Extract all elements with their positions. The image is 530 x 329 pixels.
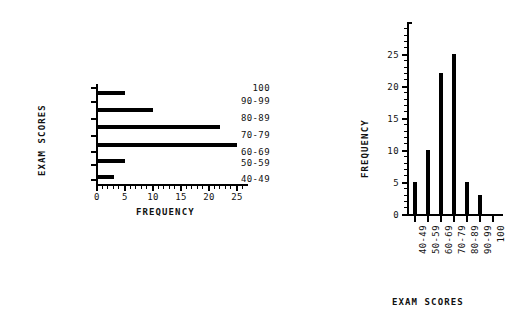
- chart-right-y-tick-label-15: 15: [387, 115, 399, 124]
- chart-right-y-axis-title: FREQUENCY: [361, 119, 370, 178]
- chart-left-x-minor-tick: [225, 186, 226, 189]
- chart-right-x-tick-90-99: [479, 216, 481, 222]
- chart-right-y-minor-tick: [404, 105, 408, 106]
- chart-left-x-minor-tick: [113, 186, 114, 189]
- chart-left-category-label-80-89: 80-89: [222, 114, 270, 123]
- chart-right-y-tick-label-25: 25: [387, 51, 399, 60]
- chart-left-bar-70-79: [97, 125, 220, 129]
- chart-left-x-minor-tick: [135, 186, 136, 189]
- chart-right-x-tick-label-40-49: 40-49: [419, 225, 428, 254]
- chart-left-y-tick-1: [91, 101, 96, 103]
- chart-right-x-tick-50-59: [427, 216, 429, 222]
- chart-right-y-tick-label-0: 0: [393, 211, 399, 220]
- chart-left-x-tick-15: [180, 186, 182, 191]
- chart-right-y-minor-tick: [404, 111, 408, 112]
- chart-left-x-minor-tick: [230, 186, 231, 189]
- chart-left-category-label-50-59: 50-59: [222, 159, 270, 168]
- chart-right-y-tick-5: [402, 182, 408, 184]
- chart-left-y-tick-4: [91, 151, 96, 153]
- chart-left-x-minor-tick: [141, 186, 142, 189]
- chart-right-y-minor-tick: [404, 99, 408, 100]
- chart-left-bar-40-49: [97, 175, 114, 179]
- chart-right-y-minor-tick: [404, 201, 408, 202]
- chart-left-x-tick-label-0: 0: [94, 193, 100, 202]
- chart-right-bar-40-49: [413, 182, 417, 214]
- chart-left-x-minor-tick: [242, 186, 243, 189]
- chart-right-y-minor-tick: [404, 35, 408, 36]
- chart-left-bar-90-99: [97, 91, 125, 95]
- chart-left-x-minor-tick: [146, 186, 147, 189]
- chart-right-y-tick-15: [402, 118, 408, 120]
- chart-right-y-axis-cap: [407, 22, 412, 24]
- figure-two-exam-score-charts: EXAM SCORES 100 90-99 80-89 70-79 60-69 …: [0, 0, 530, 329]
- horizontal-bar-chart: EXAM SCORES 100 90-99 80-89 70-79 60-69 …: [0, 0, 270, 329]
- chart-left-y-tick-6: [91, 179, 96, 181]
- chart-left-x-axis-title: FREQUENCY: [136, 208, 195, 217]
- chart-left-x-minor-tick: [130, 186, 131, 189]
- chart-right-y-minor-tick: [404, 188, 408, 189]
- chart-right-y-minor-tick: [404, 195, 408, 196]
- vertical-bar-chart: FREQUENCY: [330, 0, 530, 329]
- chart-left-bar-50-59: [97, 159, 125, 163]
- chart-left-x-minor-tick: [214, 186, 215, 189]
- chart-right-y-tick-0: [402, 214, 408, 216]
- chart-left-y-axis-title: EXAM SCORES: [38, 104, 47, 176]
- chart-right-x-tick-label-70-79: 70-79: [458, 225, 467, 254]
- chart-right-y-minor-tick: [404, 124, 408, 125]
- chart-left-x-tick-10: [152, 186, 154, 191]
- chart-left-x-minor-tick: [174, 186, 175, 189]
- chart-right-y-minor-tick: [404, 169, 408, 170]
- chart-left-x-minor-tick: [169, 186, 170, 189]
- chart-left-x-minor-tick: [197, 186, 198, 189]
- chart-left-x-minor-tick: [202, 186, 203, 189]
- chart-right-bar-60-69: [439, 73, 443, 214]
- chart-left-x-tick-label-20: 20: [203, 193, 215, 202]
- chart-right-bar-50-59: [426, 150, 430, 214]
- chart-left-x-minor-tick: [118, 186, 119, 189]
- chart-left-y-tick-3: [91, 135, 96, 137]
- chart-left-x-tick-label-10: 10: [147, 193, 159, 202]
- chart-right-x-axis-line: [407, 214, 503, 216]
- chart-left-x-minor-tick: [102, 186, 103, 189]
- chart-right-x-tick-80-89: [466, 216, 468, 222]
- chart-right-x-tick-100: [492, 216, 494, 222]
- chart-right-y-minor-tick: [404, 41, 408, 42]
- chart-right-y-minor-tick: [404, 92, 408, 93]
- chart-left-x-minor-tick: [158, 186, 159, 189]
- chart-right-y-tick-label-5: 5: [393, 179, 399, 188]
- chart-right-x-tick-label-50-59: 50-59: [432, 225, 441, 254]
- chart-left-x-tick-label-5: 5: [122, 193, 128, 202]
- chart-right-x-tick-40-49: [414, 216, 416, 222]
- chart-right-x-tick-label-100: 100: [497, 225, 506, 242]
- chart-left-category-label-60-69: 60-69: [222, 148, 270, 157]
- chart-right-y-minor-tick: [404, 163, 408, 164]
- chart-left-y-tick-0: [91, 87, 96, 89]
- chart-left-x-minor-tick: [191, 186, 192, 189]
- chart-left-bar-80-89: [97, 108, 153, 112]
- chart-right-y-tick-label-10: 10: [387, 147, 399, 156]
- chart-left-x-tick-5: [124, 186, 126, 191]
- chart-left-x-tick-label-15: 15: [175, 193, 187, 202]
- chart-right-y-minor-tick: [404, 207, 408, 208]
- chart-right-x-axis-title: EXAM SCORES: [392, 298, 464, 307]
- chart-left-x-tick-label-25: 25: [231, 193, 243, 202]
- chart-right-y-minor-tick: [404, 143, 408, 144]
- chart-right-x-tick-label-60-69: 60-69: [445, 225, 454, 254]
- chart-right-y-minor-tick: [404, 47, 408, 48]
- chart-left-x-minor-tick: [186, 186, 187, 189]
- chart-right-y-minor-tick: [404, 175, 408, 176]
- chart-left-x-tick-0: [96, 186, 98, 191]
- chart-right-y-minor-tick: [404, 28, 408, 29]
- chart-right-y-minor-tick: [404, 73, 408, 74]
- chart-left-bar-60-69: [97, 143, 237, 147]
- chart-right-y-minor-tick: [404, 60, 408, 61]
- chart-right-bar-70-79: [452, 54, 456, 214]
- chart-right-bar-90-99: [478, 195, 482, 214]
- chart-right-x-tick-70-79: [453, 216, 455, 222]
- chart-left-category-label-70-79: 70-79: [222, 131, 270, 140]
- chart-left-y-axis-line: [96, 84, 98, 184]
- chart-right-y-tick-20: [402, 86, 408, 88]
- chart-right-y-minor-tick: [404, 156, 408, 157]
- chart-right-y-tick-10: [402, 150, 408, 152]
- chart-left-y-tick-2: [91, 118, 96, 120]
